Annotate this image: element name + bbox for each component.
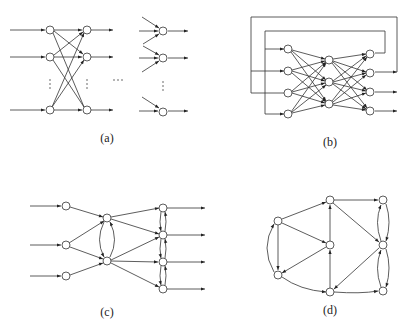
panel-label-d: (d): [323, 303, 337, 317]
panel-d-nodes: [274, 196, 387, 296]
panel-c-nodes: [62, 202, 167, 293]
network-topologies-figure: (a) (b) (c) (d): [0, 0, 404, 325]
panel-label-a: (a): [100, 131, 113, 145]
panel-label-c: (c): [100, 305, 113, 319]
panel-c: [30, 206, 205, 289]
panel-b: [251, 17, 397, 114]
diagram-canvas: (a) (b) (c) (d): [0, 0, 404, 325]
panel-label-b: (b): [323, 135, 337, 149]
